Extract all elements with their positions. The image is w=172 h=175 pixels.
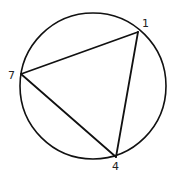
vertex-label-4: 4 bbox=[112, 160, 119, 173]
vertex-label-7: 7 bbox=[8, 69, 15, 82]
edge-7-4 bbox=[21, 74, 116, 157]
circle-triangle-diagram: 1 7 4 bbox=[0, 0, 172, 175]
vertex-label-1: 1 bbox=[142, 17, 149, 30]
triangle-edges bbox=[21, 32, 138, 157]
edge-4-1 bbox=[116, 32, 138, 157]
